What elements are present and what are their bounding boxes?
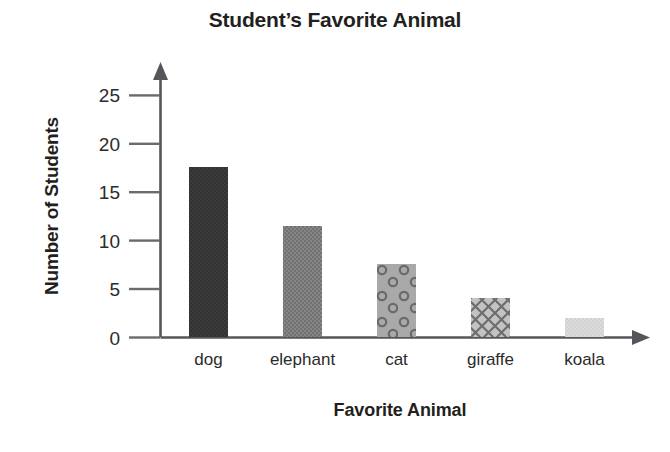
x-label-koala: koala bbox=[564, 350, 605, 369]
bar-giraffe[interactable] bbox=[471, 298, 510, 337]
bar-elephant[interactable] bbox=[283, 226, 322, 337]
x-axis-category-labels: dog elephant cat giraffe koala bbox=[194, 350, 605, 369]
bar-chart: Student’s Favorite Animal Number of Stud… bbox=[0, 0, 670, 452]
bar-cat[interactable] bbox=[377, 264, 416, 337]
bar-dog[interactable] bbox=[189, 167, 228, 337]
x-label-elephant: elephant bbox=[270, 350, 336, 369]
y-axis-ticks bbox=[129, 95, 160, 337]
x-label-dog: dog bbox=[194, 350, 222, 369]
bar-koala[interactable] bbox=[565, 318, 604, 337]
bars-group bbox=[189, 167, 604, 337]
plot-area: 0 5 10 15 20 25 dog elephant cat giraffe… bbox=[0, 0, 670, 452]
x-label-cat: cat bbox=[385, 350, 408, 369]
y-tick-label-20: 20 bbox=[99, 134, 120, 155]
y-tick-label-0: 0 bbox=[109, 328, 120, 349]
y-tick-label-15: 15 bbox=[99, 182, 120, 203]
y-tick-label-25: 25 bbox=[99, 85, 120, 106]
y-tick-label-10: 10 bbox=[99, 231, 120, 252]
x-axis-arrowhead bbox=[632, 330, 650, 345]
y-axis-tick-labels: 0 5 10 15 20 25 bbox=[99, 85, 120, 348]
x-label-giraffe: giraffe bbox=[467, 350, 514, 369]
y-tick-label-5: 5 bbox=[109, 279, 120, 300]
y-axis-arrowhead bbox=[153, 62, 168, 80]
